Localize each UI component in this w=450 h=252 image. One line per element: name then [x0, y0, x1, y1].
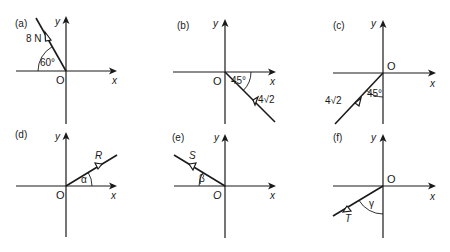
angle-label: α: [81, 174, 87, 185]
y-axis-label: y: [54, 131, 61, 142]
panel-f: (f) x y O γ T: [333, 132, 436, 238]
y-axis-label: y: [213, 132, 220, 143]
origin-label: O: [213, 75, 222, 87]
vector-magnitude-label: 4√2: [325, 95, 342, 106]
origin-label: O: [387, 60, 396, 72]
vector-magnitude-label: 8 N: [26, 33, 42, 44]
panel-a: (a) x y O 8 N 60°: [15, 16, 118, 124]
panel-b: (b) x y O 45° 4√2: [173, 18, 276, 124]
x-axis-label: x: [429, 191, 436, 202]
y-axis-label: y: [54, 16, 61, 27]
vector-diagrams: (a) x y O 8 N 60° (b) x y O 45° 4√2 (c): [0, 0, 450, 252]
force-vector: [333, 186, 383, 216]
vector-label: R: [95, 150, 102, 161]
origin-label: O: [56, 189, 65, 201]
panel-label: (c): [333, 20, 345, 31]
vector-arrowhead-icon: [189, 163, 196, 170]
vector-magnitude-label: 4√2: [258, 94, 275, 105]
angle-arc: [88, 173, 92, 187]
angle-label: 45°: [367, 88, 382, 99]
y-axis-label: y: [370, 132, 377, 143]
panel-label: (a): [15, 18, 27, 29]
angle-label: β: [199, 173, 205, 184]
y-axis-label: y: [370, 18, 377, 29]
angle-label: 45°: [231, 75, 246, 86]
panel-label: (f): [333, 132, 342, 143]
vector-arrowhead-icon: [45, 32, 51, 41]
panel-c: (c) x y O 45° 4√2: [325, 18, 436, 124]
origin-label: O: [213, 189, 222, 201]
panel-label: (e): [172, 132, 184, 143]
angle-label: γ: [369, 198, 374, 209]
vector-label: S: [189, 150, 196, 161]
angle-label: 60°: [40, 57, 55, 68]
x-axis-label: x: [110, 190, 117, 201]
x-axis-label: x: [269, 76, 276, 87]
panel-label: (d): [15, 129, 27, 140]
y-axis-label: y: [212, 18, 219, 29]
panel-e: (e) x y O β S: [172, 132, 276, 238]
x-axis-label: x: [111, 75, 118, 86]
vector-label: T: [345, 213, 352, 224]
origin-label: O: [56, 74, 65, 86]
panel-d: (d) x y O α R: [15, 129, 117, 237]
x-axis-label: x: [429, 78, 436, 89]
x-axis-label: x: [269, 190, 276, 201]
panel-label: (b): [177, 20, 189, 31]
origin-label: O: [387, 173, 396, 185]
